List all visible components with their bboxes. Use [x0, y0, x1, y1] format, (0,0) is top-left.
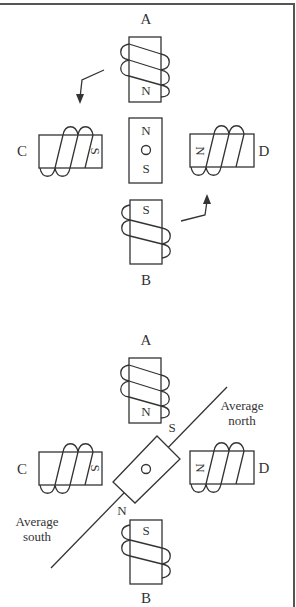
coil-d-winding-bottom — [191, 167, 221, 175]
coil-d-lower-winding-top — [214, 443, 244, 451]
coil-c-lower-winding-bottom — [40, 485, 70, 493]
coil-d-winding-top — [214, 126, 244, 134]
bottom-diagram: A N Average north C S S N — [15, 332, 269, 606]
coil-a-lower-label: A — [141, 332, 152, 348]
rotation-arrow-top-left-icon — [76, 70, 104, 104]
top-diagram: A N C S N S — [17, 11, 270, 288]
coil-d-lower: N D — [190, 443, 270, 493]
coil-d-lower-winding-bottom — [191, 484, 221, 492]
rotor-bottom: S N — [113, 420, 180, 518]
coil-c-pole: S — [88, 147, 103, 154]
coil-c-label: C — [17, 143, 27, 159]
coil-a-lower-winding-right — [161, 375, 169, 418]
coil-c-lower-pole: S — [88, 464, 103, 471]
coil-b-winding-left — [122, 205, 130, 236]
coil-a-lower-winding-back — [121, 365, 129, 397]
rotor-bottom-south: S — [168, 420, 175, 435]
diagram-canvas: A N C S N S — [0, 0, 296, 607]
coil-a-label: A — [141, 11, 152, 27]
coil-b-pole: S — [142, 202, 149, 217]
average-south-label-line2: south — [23, 529, 52, 544]
average-south-label-line1: Average — [15, 514, 58, 529]
rotor-top-north: N — [141, 123, 151, 138]
coil-b-lower-pole: S — [142, 523, 149, 538]
rotor-bottom-north: N — [117, 503, 127, 518]
stepper-motor-diagram: A N C S N S — [0, 0, 296, 607]
coil-c: C S — [17, 127, 103, 177]
coil-b-lower: S B — [122, 520, 171, 606]
coil-a-winding-right — [161, 54, 169, 97]
average-north-label-line1: Average — [220, 398, 263, 413]
coil-d-pole: N — [193, 146, 208, 156]
coil-d: N D — [190, 126, 270, 176]
coil-c-lower: C S — [17, 444, 103, 494]
coil-a-lower: A N — [121, 332, 170, 423]
average-north-label-line2: north — [228, 413, 256, 428]
rotor-top-south: S — [142, 161, 149, 176]
coil-a: A N — [121, 11, 170, 102]
coil-c-lower-winding-top — [63, 444, 93, 452]
coil-b-lower-winding-left — [122, 525, 130, 556]
coil-d-label: D — [259, 143, 270, 159]
coil-b-label: B — [141, 272, 151, 288]
coil-a-lower-pole: N — [141, 404, 151, 419]
coil-b-lower-winding-right — [162, 548, 170, 578]
coil-c-winding-bottom — [40, 168, 70, 176]
coil-c-winding-top — [63, 127, 93, 135]
coil-d-lower-label: D — [259, 460, 270, 476]
coil-b-winding-right — [162, 228, 170, 258]
coil-b-lower-label: B — [141, 590, 151, 606]
coil-a-pole: N — [141, 83, 151, 98]
coil-d-lower-pole: N — [193, 463, 208, 473]
rotation-arrow-bottom-right-icon — [181, 194, 211, 221]
coil-b: S B — [122, 200, 171, 288]
coil-c-lower-label: C — [17, 461, 27, 477]
rotor-top: N S — [129, 118, 162, 183]
coil-a-winding-back — [121, 44, 129, 76]
